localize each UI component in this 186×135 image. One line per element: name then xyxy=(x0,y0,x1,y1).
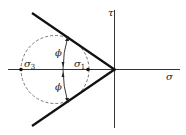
phi-upper-label: ϕ xyxy=(55,47,62,58)
tau-axis-label: τ xyxy=(108,7,114,18)
arrowhead-lower-mid xyxy=(62,72,65,77)
sigma3-point xyxy=(19,68,23,72)
phi-lower-label: ϕ xyxy=(55,81,62,92)
diagram-canvas: σ3 σ1 ϕ ϕ τ σ xyxy=(0,0,186,135)
mohr-circle-diagram: σ3 σ1 ϕ ϕ τ σ xyxy=(0,0,186,135)
sigma1-point xyxy=(86,68,90,72)
apex-point xyxy=(113,68,116,71)
lower-envelope-line xyxy=(32,70,115,127)
sigma-axis-label: σ xyxy=(166,71,174,82)
arrowhead-upper-mid xyxy=(62,62,65,67)
